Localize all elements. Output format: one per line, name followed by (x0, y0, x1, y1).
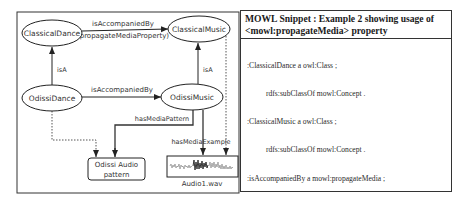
snippet-title-line1: MOWL Snippet : Example 2 showing usage o… (245, 13, 447, 25)
svg-text:OdissiDance: OdissiDance (29, 94, 76, 103)
svg-text:pattern: pattern (104, 171, 130, 179)
svg-text:Odissi Audio: Odissi Audio (95, 161, 138, 169)
node-classical-dance: ClassicalDance (22, 20, 82, 46)
svg-text:ClassicalDance: ClassicalDance (24, 29, 81, 38)
node-odissi-music: OdissiMusic (161, 84, 223, 110)
edge-dotted-left (52, 111, 96, 150)
node-odissi-audio-pattern: Odissi Audio pattern (88, 158, 145, 180)
snippet-title: MOWL Snippet : Example 2 showing usage o… (241, 11, 451, 39)
edge-label-has-media-example: hasMediaExample (171, 138, 230, 146)
edge-label-has-media-pattern: hasMediaPattern (135, 115, 189, 123)
edge-label-isa-right: isA (203, 66, 213, 74)
code-line: :isAccompaniedBy a mowl:propagateMedia ; (247, 174, 447, 183)
svg-text:Audio1.wav: Audio1.wav (182, 180, 223, 188)
edge-label-accompanied-top: isAccompaniedBy (92, 20, 154, 28)
code-line: :ClassicalMusic a owl:Class ; (247, 117, 447, 126)
svg-text:OdissiMusic: OdissiMusic (170, 93, 214, 102)
snippet-code: :ClassicalDance a owl:Class ; rdfs:subCl… (241, 39, 451, 201)
code-line: rdfs:subClassOf mowl:Concept . (247, 145, 447, 154)
mowl-snippet-panel: MOWL Snippet : Example 2 showing usage o… (240, 10, 452, 192)
snippet-title-line2: <mowl:propagateMedia> property (245, 25, 447, 37)
code-line: rdfs:subClassOf mowl:Concept . (247, 89, 447, 98)
node-audio-file: Audio1.wav (167, 156, 238, 188)
edge-label-isa-left: isA (57, 66, 67, 74)
edge-label-accompanied-bottom: isAccompaniedBy (91, 86, 153, 94)
node-odissi-dance: OdissiDance (22, 85, 82, 111)
edge-accompanied-top (82, 29, 168, 31)
node-classical-music: ClassicalMusic (168, 16, 230, 42)
edge-label-propagate: (propagateMediaProperty) (77, 32, 169, 40)
svg-text:ClassicalMusic: ClassicalMusic (172, 25, 226, 34)
code-line: :ClassicalDance a owl:Class ; (247, 61, 447, 70)
